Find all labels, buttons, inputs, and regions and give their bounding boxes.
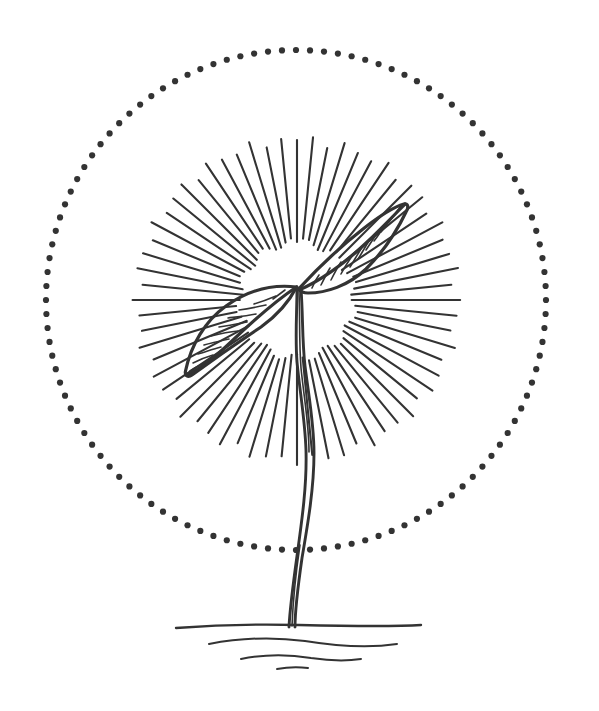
circle-dot bbox=[279, 47, 285, 53]
circle-dot bbox=[43, 311, 49, 317]
circle-dot bbox=[449, 101, 455, 107]
circle-dot bbox=[459, 483, 465, 489]
circle-dot bbox=[106, 130, 112, 136]
circle-dot bbox=[449, 492, 455, 498]
circle-dot bbox=[533, 228, 539, 234]
circle-dot bbox=[148, 93, 154, 99]
circle-dot bbox=[438, 501, 444, 507]
circle-dot bbox=[279, 547, 285, 553]
circle-dot bbox=[237, 541, 243, 547]
ground-line-main bbox=[176, 625, 421, 628]
circle-dot bbox=[293, 47, 299, 53]
circle-dot bbox=[265, 48, 271, 54]
circle-dot bbox=[68, 188, 74, 194]
circle-dot bbox=[89, 152, 95, 158]
circle-dot bbox=[126, 483, 132, 489]
circle-dot bbox=[488, 141, 494, 147]
ground-lines bbox=[176, 625, 421, 669]
circle-dot bbox=[137, 101, 143, 107]
circle-dot bbox=[197, 66, 203, 72]
circle-dot bbox=[401, 522, 407, 528]
circle-dot bbox=[74, 418, 80, 424]
circle-dot bbox=[97, 453, 103, 459]
circle-dot bbox=[53, 366, 59, 372]
circle-dot bbox=[43, 297, 49, 303]
circle-dot bbox=[307, 47, 313, 53]
circle-dot bbox=[49, 353, 55, 359]
sunburst-ray bbox=[356, 254, 449, 282]
sunburst-ray bbox=[199, 180, 259, 253]
circle-dot bbox=[470, 120, 476, 126]
circle-dot bbox=[46, 339, 52, 345]
circle-dot bbox=[210, 533, 216, 539]
circle-dot bbox=[321, 545, 327, 551]
circle-dot bbox=[537, 353, 543, 359]
circle-dot bbox=[46, 255, 52, 261]
circle-dot bbox=[49, 241, 55, 247]
illustration-canvas: Growing Seedling Sprout A hand-drawn lin… bbox=[0, 0, 599, 711]
circle-dot bbox=[459, 110, 465, 116]
circle-dot bbox=[53, 228, 59, 234]
circle-dot bbox=[497, 152, 503, 158]
circle-dot bbox=[349, 53, 355, 59]
circle-dot bbox=[362, 57, 368, 63]
circle-dot bbox=[389, 66, 395, 72]
circle-dot bbox=[537, 241, 543, 247]
circle-dot bbox=[126, 110, 132, 116]
circle-dot bbox=[224, 57, 230, 63]
circle-dot bbox=[543, 283, 549, 289]
circle-dot bbox=[389, 528, 395, 534]
circle-dot bbox=[414, 516, 420, 522]
seedling-illustration bbox=[0, 0, 599, 711]
circle-dot bbox=[62, 393, 68, 399]
circle-dot bbox=[81, 430, 87, 436]
circle-dot bbox=[512, 418, 518, 424]
sunburst-ray bbox=[358, 312, 451, 330]
circle-dot bbox=[524, 201, 530, 207]
sprout-stem bbox=[289, 287, 314, 627]
circle-dot bbox=[426, 509, 432, 515]
circle-dot bbox=[362, 537, 368, 543]
ground-line-second bbox=[209, 639, 397, 647]
circle-dot bbox=[57, 379, 63, 385]
circle-dot bbox=[210, 61, 216, 67]
ground-line-dash bbox=[277, 667, 308, 669]
circle-dot bbox=[518, 188, 524, 194]
circle-dot bbox=[543, 297, 549, 303]
circle-dot bbox=[62, 201, 68, 207]
sunburst-ray bbox=[152, 222, 245, 272]
circle-dot bbox=[541, 325, 547, 331]
circle-dot bbox=[237, 53, 243, 59]
circle-dot bbox=[184, 72, 190, 78]
circle-dot bbox=[89, 442, 95, 448]
circle-dot bbox=[137, 492, 143, 498]
circle-dot bbox=[512, 176, 518, 182]
circle-dot bbox=[68, 405, 74, 411]
circle-dot bbox=[479, 130, 485, 136]
circle-dot bbox=[57, 214, 63, 220]
circle-dot bbox=[224, 537, 230, 543]
circle-dot bbox=[116, 120, 122, 126]
circle-dot bbox=[524, 393, 530, 399]
circle-dot bbox=[529, 214, 535, 220]
circle-dot bbox=[505, 430, 511, 436]
circle-dot bbox=[543, 311, 549, 317]
circle-dot bbox=[307, 547, 313, 553]
circle-dot bbox=[479, 463, 485, 469]
circle-dot bbox=[335, 543, 341, 549]
ground-line-third bbox=[241, 655, 361, 660]
circle-dot bbox=[349, 541, 355, 547]
circle-dot bbox=[265, 545, 271, 551]
circle-dot bbox=[321, 48, 327, 54]
circle-dot bbox=[488, 453, 494, 459]
circle-dot bbox=[505, 164, 511, 170]
circle-dot bbox=[335, 50, 341, 56]
circle-dot bbox=[497, 442, 503, 448]
circle-dot bbox=[401, 72, 407, 78]
circle-dot bbox=[172, 516, 178, 522]
circle-dot bbox=[251, 50, 257, 56]
circle-dot bbox=[375, 533, 381, 539]
circle-dot bbox=[470, 474, 476, 480]
circle-dot bbox=[539, 255, 545, 261]
circle-dot bbox=[375, 61, 381, 67]
